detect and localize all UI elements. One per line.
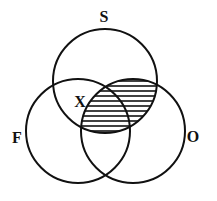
set-label-o: O: [187, 128, 199, 145]
set-label-s: S: [100, 8, 109, 25]
set-label-f: F: [12, 129, 22, 146]
region-marker-x: X: [74, 93, 86, 110]
venn-diagram: S F O X: [0, 0, 217, 201]
